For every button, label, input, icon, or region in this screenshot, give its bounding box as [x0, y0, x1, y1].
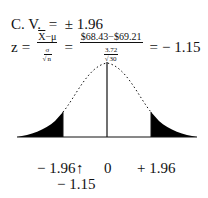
left-cv-label: − 1.96 [37, 160, 75, 177]
right-rejection-region [151, 112, 197, 137]
test-value-arrow: ↑ [76, 160, 84, 177]
left-rejection-region [17, 112, 63, 137]
test-value-label: − 1.15 [57, 176, 95, 193]
center-label: 0 [104, 160, 112, 177]
right-cv-label: + 1.96 [137, 160, 175, 177]
